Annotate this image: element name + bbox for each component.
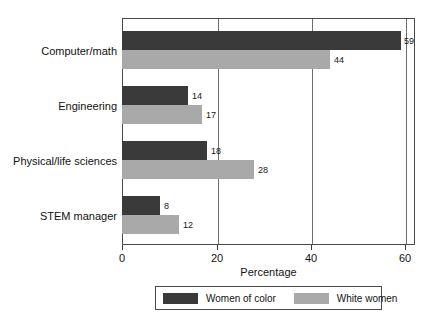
value-label-physical-life-sciences-white-women: 28	[258, 165, 268, 175]
x-tick-60	[405, 245, 406, 250]
value-label-stem-manager-women-of-color: 8	[164, 201, 169, 211]
value-label-engineering-women-of-color: 14	[192, 91, 202, 101]
bar-engineering-women-of-color	[122, 86, 188, 105]
category-label-stem-manager: STEM manager	[0, 210, 117, 222]
legend-label-white-women: White women	[337, 293, 398, 304]
legend-label-women-of-color: Women of color	[206, 293, 276, 304]
value-label-engineering-white-women: 17	[206, 110, 216, 120]
bar-stem-manager-women-of-color	[122, 196, 160, 215]
category-label-engineering: Engineering	[0, 100, 117, 112]
bar-computer-math-white-women	[122, 50, 330, 69]
bar-engineering-white-women	[122, 105, 202, 124]
x-tick-label-20: 20	[202, 252, 232, 264]
x-tick-40	[311, 245, 312, 250]
legend-entry-white-women: White women	[294, 287, 398, 309]
x-tick-label-0: 0	[107, 252, 137, 264]
value-label-computer-math-women-of-color: 59	[404, 36, 414, 46]
legend-swatch-women-of-color	[163, 293, 198, 304]
legend-entry-women-of-color: Women of color	[163, 287, 276, 309]
category-label-physical-life-sciences: Physical/life sciences	[0, 155, 117, 167]
value-label-physical-life-sciences-women-of-color: 18	[211, 146, 221, 156]
category-label-computer-math: Computer/math	[0, 45, 117, 57]
x-tick-label-60: 60	[390, 252, 420, 264]
value-label-stem-manager-white-women: 12	[183, 220, 193, 230]
x-axis-title: Percentage	[122, 266, 415, 278]
bar-stem-manager-white-women	[122, 215, 179, 234]
horizontal-bar-chart: 59 44 14 17 18 28 8 12 Computer/math Eng…	[0, 0, 430, 321]
legend-swatch-white-women	[294, 293, 329, 304]
bar-physical-life-sciences-women-of-color	[122, 141, 207, 160]
legend: Women of color White women	[155, 286, 382, 310]
bar-computer-math-women-of-color	[122, 31, 401, 50]
x-tick-20	[217, 245, 218, 250]
x-tick-0	[122, 245, 123, 250]
bar-physical-life-sciences-white-women	[122, 160, 254, 179]
x-tick-label-40: 40	[296, 252, 326, 264]
value-label-computer-math-white-women: 44	[334, 55, 344, 65]
